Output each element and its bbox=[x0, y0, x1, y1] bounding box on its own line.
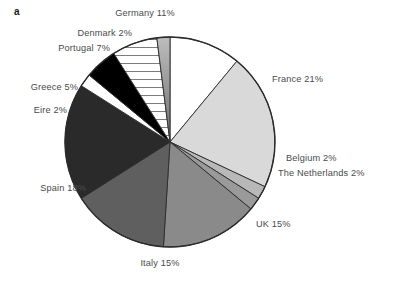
pie-label-italy: Italy 15% bbox=[140, 258, 179, 269]
pie-label-the-netherlands: The Netherlands 2% bbox=[278, 168, 364, 179]
pie-label-france: France 21% bbox=[272, 74, 323, 85]
pie-label-eire: Eire 2% bbox=[34, 105, 67, 116]
pie-label-portugal: Portugal 7% bbox=[58, 43, 110, 54]
pie-slice-group bbox=[65, 37, 275, 247]
pie-label-spain: Spain 18% bbox=[40, 183, 86, 194]
pie-chart-figure: a Germany 11%France 21%Belgium 2%The Net… bbox=[0, 0, 393, 282]
pie-label-belgium: Belgium 2% bbox=[286, 153, 337, 164]
pie-label-denmark: Denmark 2% bbox=[77, 28, 132, 39]
pie-label-greece: Greece 5% bbox=[31, 82, 78, 93]
pie-label-uk: UK 15% bbox=[256, 219, 291, 230]
pie-label-germany: Germany 11% bbox=[115, 8, 175, 19]
